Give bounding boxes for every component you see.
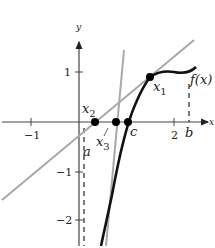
x3-leader-line xyxy=(104,128,108,136)
point-x3 xyxy=(112,118,120,126)
x-tick-label-neg1: −1 xyxy=(24,129,40,142)
y-tick-label-1: 1 xyxy=(64,66,71,79)
function-curve xyxy=(101,67,196,246)
label-c: c xyxy=(130,124,138,139)
y-axis: y 1 −1 −2 xyxy=(56,22,83,246)
label-x3: x3 xyxy=(96,134,110,152)
label-x1: x1 xyxy=(153,79,167,97)
x-tick-label-2: 2 xyxy=(171,129,178,142)
newton-method-diagram: x −1 2 y 1 −1 −2 x2 x3 c x1 a b f(x) xyxy=(0,0,215,248)
x-axis: x −1 2 xyxy=(2,117,214,142)
label-b: b xyxy=(185,125,193,140)
label-x2: x2 xyxy=(82,101,96,119)
point-x2 xyxy=(91,118,99,126)
label-a: a xyxy=(83,144,91,159)
label-fx: f(x) xyxy=(189,72,212,87)
y-axis-label: y xyxy=(75,22,82,32)
y-tick-label-neg1: −1 xyxy=(56,166,72,179)
x-axis-label: x xyxy=(209,117,214,127)
y-tick-label-neg2: −2 xyxy=(56,214,72,227)
